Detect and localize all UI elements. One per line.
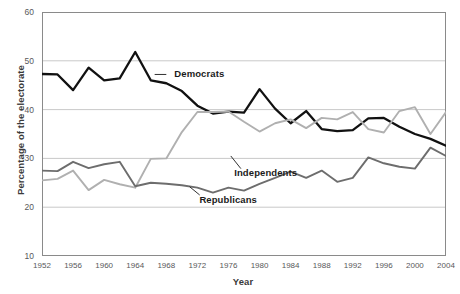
y-axis-title: Percentage of the electorate: [14, 8, 28, 252]
series-label-democrats: Democrats: [174, 68, 224, 79]
series-label-independents: Independents: [234, 167, 297, 178]
y-tick-label: 50: [10, 57, 34, 65]
y-tick-label: 60: [10, 8, 34, 16]
plot-frame: [43, 13, 446, 256]
y-tick-label: 10: [10, 252, 34, 260]
x-axis-title: Year: [40, 276, 446, 287]
line-chart-svg: [42, 12, 446, 256]
series-label-republicans: Republicans: [199, 194, 257, 205]
y-tick-label: 20: [10, 203, 34, 211]
x-tick-label: 2004: [426, 262, 460, 270]
y-tick-label: 40: [10, 106, 34, 114]
plot-area: [42, 12, 446, 256]
y-tick-label: 30: [10, 154, 34, 162]
